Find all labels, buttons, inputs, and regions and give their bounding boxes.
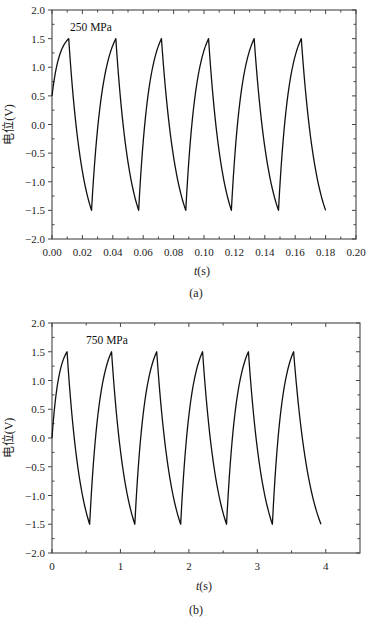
y-tick-label: 1.5	[31, 33, 45, 45]
potential-curve	[52, 39, 326, 211]
chart-b: 2.01.51.00.50.0−0.5−1.0−1.5−2.001234t(s)…	[0, 313, 371, 626]
x-tick-label: 1	[118, 560, 124, 572]
x-tick-label: 0	[49, 560, 55, 572]
x-tick-label: 0.02	[73, 246, 92, 258]
y-tick-label: −0.5	[25, 147, 45, 159]
chart-b-annotation: 750 MPa	[86, 334, 128, 346]
x-tick-label: 0.20	[346, 246, 366, 258]
y-tick-label: 0.0	[31, 119, 45, 131]
x-tick-label: 0.00	[42, 246, 62, 258]
chart-b-frame: 2.01.51.00.50.0−0.5−1.0−1.5−2.001234t(s)…	[1, 317, 360, 593]
y-tick-label: −2.0	[25, 233, 45, 245]
y-tick-label: 2.0	[31, 4, 45, 16]
y-axis-title: 电位(V)	[1, 104, 16, 145]
chart-a-frame: 2.01.51.00.50.0−0.5−1.0−1.5−2.00.000.020…	[1, 4, 366, 278]
y-tick-label: 0.5	[31, 403, 45, 415]
y-tick-label: 1.0	[31, 61, 45, 73]
y-tick-label: 1.0	[31, 375, 45, 387]
y-tick-label: −1.5	[25, 518, 45, 530]
x-tick-label: 0.16	[286, 246, 306, 258]
chart-b-canvas: 2.01.51.00.50.0−0.5−1.0−1.5−2.001234t(s)…	[0, 313, 371, 626]
y-tick-label: −2.0	[25, 547, 45, 559]
y-tick-label: −0.5	[25, 461, 45, 473]
x-tick-label: 0.10	[194, 246, 214, 258]
chart-a-canvas: 2.01.51.00.50.0−0.5−1.0−1.5−2.00.000.020…	[0, 0, 371, 313]
x-tick-label: 0.18	[316, 246, 336, 258]
x-tick-label: 4	[323, 560, 329, 572]
chart-b-caption: (b)	[189, 603, 203, 617]
x-tick-label: 0.14	[255, 246, 275, 258]
y-tick-label: 1.5	[31, 346, 45, 358]
x-tick-label: 0.08	[164, 246, 184, 258]
y-tick-label: 0.0	[31, 432, 45, 444]
y-axis-title: 电位(V)	[1, 418, 16, 459]
x-axis-title: t(s)	[196, 579, 212, 593]
chart-a: 2.01.51.00.50.0−0.5−1.0−1.5−2.00.000.020…	[0, 0, 371, 313]
y-tick-label: −1.5	[25, 204, 45, 216]
x-tick-label: 3	[255, 560, 261, 572]
potential-curve	[52, 352, 321, 525]
x-tick-label: 0.12	[225, 246, 244, 258]
x-tick-label: 0.04	[103, 246, 123, 258]
y-tick-label: 2.0	[31, 317, 45, 329]
chart-a-annotation: 250 MPa	[70, 21, 112, 33]
plot-frame	[52, 323, 360, 553]
x-axis-title: t(s)	[194, 264, 210, 278]
x-tick-label: 2	[186, 560, 192, 572]
y-tick-label: −1.0	[25, 176, 45, 188]
y-tick-label: 0.5	[31, 90, 45, 102]
chart-a-caption: (a)	[189, 286, 202, 300]
y-tick-label: −1.0	[25, 490, 45, 502]
x-tick-label: 0.06	[134, 246, 154, 258]
